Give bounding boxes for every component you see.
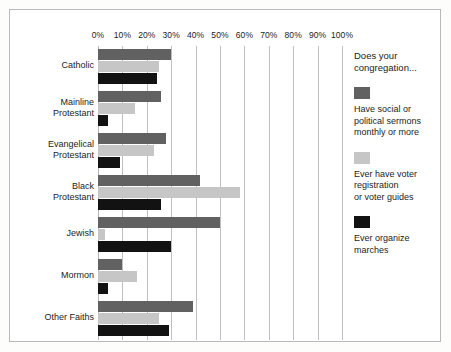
bar-group [98, 133, 342, 168]
category-label: Catholic [18, 60, 94, 72]
category-label: Jewish [18, 228, 94, 240]
bar [98, 241, 171, 252]
legend-label: Ever organize marches [354, 233, 450, 256]
bar [98, 217, 220, 228]
legend-swatch [354, 87, 370, 99]
x-tick-label: 20% [138, 30, 155, 40]
chart-frame: 0%10%20%30%40%50%60%70%80%90%100% Cathol… [9, 9, 441, 342]
bar [98, 157, 120, 168]
x-tick-label: 90% [309, 30, 326, 40]
legend-title: Does your congregation... [354, 50, 450, 74]
x-tick-label: 30% [163, 30, 180, 40]
bar [98, 259, 122, 270]
bar [98, 187, 240, 198]
plot-area [98, 46, 342, 340]
category-axis-labels: CatholicMainline ProtestantEvangelical P… [14, 46, 94, 340]
chart-legend: Does your congregation... Have social or… [354, 50, 450, 269]
legend-item: Ever organize marches [354, 216, 450, 256]
bar [98, 175, 200, 186]
x-axis-tick-labels: 0%10%20%30%40%50%60%70%80%90%100% [98, 30, 342, 44]
legend-item: Ever have voter registration or voter gu… [354, 152, 450, 204]
x-tick-label: 60% [236, 30, 253, 40]
bar-group [98, 259, 342, 294]
legend-swatch [354, 216, 370, 228]
bar [98, 73, 157, 84]
category-label: Other Faiths [18, 312, 94, 324]
x-tick-label: 40% [187, 30, 204, 40]
bar [98, 61, 159, 72]
legend-items: Have social or political sermons monthly… [354, 87, 450, 256]
category-label: Mainline Protestant [18, 97, 94, 120]
legend-swatch [354, 152, 370, 164]
x-tick-label: 100% [331, 30, 353, 40]
category-label: Evangelical Protestant [18, 139, 94, 162]
legend-item: Have social or political sermons monthly… [354, 87, 450, 139]
chart-figure: 0%10%20%30%40%50%60%70%80%90%100% Cathol… [0, 0, 451, 352]
bar-group [98, 49, 342, 84]
bar [98, 91, 161, 102]
category-label: Black Protestant [18, 181, 94, 204]
bar [98, 49, 171, 60]
bar [98, 115, 108, 126]
legend-label: Have social or political sermons monthly… [354, 104, 450, 139]
legend-label: Ever have voter registration or voter gu… [354, 169, 450, 204]
bar [98, 301, 193, 312]
bar [98, 325, 169, 336]
bar [98, 133, 166, 144]
x-tick-label: 50% [211, 30, 228, 40]
x-tick-label: 0% [92, 30, 105, 40]
bar [98, 229, 105, 240]
bar-group [98, 217, 342, 252]
bar [98, 145, 154, 156]
gridline [342, 46, 343, 340]
category-label: Mormon [18, 270, 94, 282]
x-tick-label: 80% [285, 30, 302, 40]
bar [98, 313, 159, 324]
bar [98, 103, 135, 114]
bar [98, 199, 161, 210]
bar [98, 271, 137, 282]
x-tick-label: 70% [260, 30, 277, 40]
bar-group [98, 301, 342, 336]
bar-group [98, 175, 342, 210]
bar-group [98, 91, 342, 126]
x-tick-label: 10% [114, 30, 131, 40]
bar [98, 283, 108, 294]
